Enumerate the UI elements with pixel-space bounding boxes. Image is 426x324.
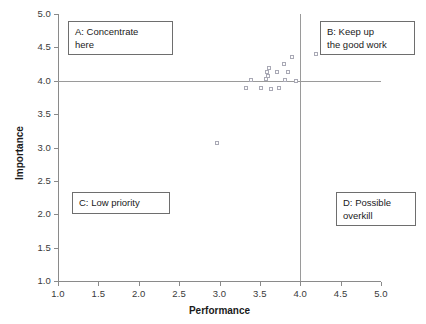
y-axis-tick xyxy=(54,81,58,82)
y-axis-tick-label: 4.0 xyxy=(20,75,51,86)
data-point xyxy=(267,66,271,70)
x-axis-tick xyxy=(58,282,59,286)
data-point xyxy=(259,86,263,90)
x-axis-tick-label: 1.0 xyxy=(42,288,74,299)
quadrant-label-a: A: Concentrate here xyxy=(68,21,173,55)
data-point xyxy=(277,86,281,90)
y-axis-tick xyxy=(54,47,58,48)
x-axis-tick xyxy=(300,282,301,286)
data-point xyxy=(275,70,279,74)
data-point xyxy=(249,78,253,82)
y-axis-title: Importance xyxy=(14,126,25,180)
y-axis-tick-label: 4.5 xyxy=(20,41,51,52)
x-axis-tick-label: 2.0 xyxy=(123,288,155,299)
data-point xyxy=(215,141,219,145)
x-axis-tick xyxy=(381,282,382,286)
data-point xyxy=(244,86,248,90)
x-axis-tick-label: 4.0 xyxy=(284,288,316,299)
x-axis-tick xyxy=(179,282,180,286)
y-axis-tick-label: 5.0 xyxy=(20,8,51,19)
quadrant-label-d: D: Possible overkill xyxy=(336,192,416,226)
y-axis-tick xyxy=(54,181,58,182)
data-point xyxy=(286,70,290,74)
x-axis-tick-label: 3.5 xyxy=(244,288,276,299)
data-point xyxy=(314,52,318,56)
y-axis-tick xyxy=(54,248,58,249)
x-axis-title: Performance xyxy=(180,305,260,316)
y-axis-tick xyxy=(54,114,58,115)
data-point xyxy=(283,78,287,82)
data-point xyxy=(266,74,270,78)
x-axis-tick-label: 3.0 xyxy=(204,288,236,299)
quadrant-label-b: B: Keep up the good work xyxy=(320,21,415,55)
data-point xyxy=(269,87,273,91)
reference-line-horizontal xyxy=(58,81,381,82)
x-axis-tick-label: 2.5 xyxy=(163,288,195,299)
y-axis-tick xyxy=(54,148,58,149)
x-axis-tick xyxy=(139,282,140,286)
quadrant-a-line1: A: Concentrate xyxy=(75,26,166,39)
y-axis-line xyxy=(58,14,59,281)
data-point xyxy=(294,79,298,83)
x-axis-tick xyxy=(98,282,99,286)
importance-performance-chart: 1.01.52.02.53.03.54.04.55.01.01.52.02.53… xyxy=(0,0,426,324)
x-axis-tick xyxy=(341,282,342,286)
quadrant-a-line2: here xyxy=(75,39,166,52)
y-axis-tick-label: 2.0 xyxy=(20,208,51,219)
quadrant-c-line1: C: Low priority xyxy=(79,197,163,210)
y-axis-tick-label: 1.5 xyxy=(20,242,51,253)
quadrant-b-line2: the good work xyxy=(327,39,408,52)
y-axis-tick xyxy=(54,14,58,15)
quadrant-d-line2: overkill xyxy=(343,210,409,223)
quadrant-label-c: C: Low priority xyxy=(72,192,170,214)
data-point xyxy=(290,55,294,59)
data-point xyxy=(282,62,286,66)
quadrant-b-line1: B: Keep up xyxy=(327,26,408,39)
x-axis-tick-label: 1.5 xyxy=(82,288,114,299)
reference-line-vertical xyxy=(300,14,301,281)
y-axis-tick-label: 1.0 xyxy=(20,275,51,286)
x-axis-tick xyxy=(260,282,261,286)
x-axis-tick-label: 4.5 xyxy=(325,288,357,299)
x-axis-tick xyxy=(220,282,221,286)
x-axis-tick-label: 5.0 xyxy=(365,288,397,299)
quadrant-d-line1: D: Possible xyxy=(343,197,409,210)
y-axis-tick-label: 3.5 xyxy=(20,108,51,119)
y-axis-tick xyxy=(54,214,58,215)
